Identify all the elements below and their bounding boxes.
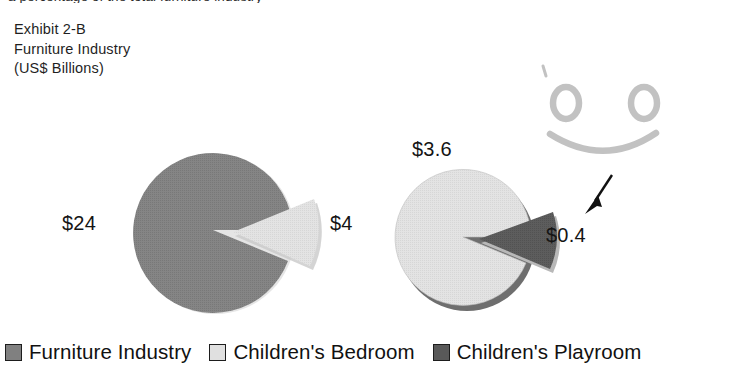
legend-item-furniture-industry: Furniture Industry: [5, 341, 191, 363]
legend-swatch-icon: [5, 344, 22, 361]
pie-charts-figure: [0, 0, 738, 371]
legend-item-childrens-playroom: Children's Playroom: [433, 341, 642, 363]
smiley-right-eye-icon: [631, 87, 657, 119]
legend-swatch-icon: [433, 344, 450, 361]
smiley-mouth-icon: [550, 133, 656, 151]
legend-swatch-icon: [209, 344, 226, 361]
legend-item-childrens-bedroom: Children's Bedroom: [209, 341, 414, 363]
legend-label: Furniture Industry: [29, 341, 191, 363]
pie-chart-right: [395, 169, 560, 311]
arrow-down-left-icon: [585, 175, 612, 214]
smiley-stray-mark-icon: [543, 66, 546, 76]
chart-legend: Furniture Industry Children's Bedroom Ch…: [5, 341, 659, 363]
legend-label: Children's Playroom: [457, 341, 642, 363]
arrow-head: [585, 195, 602, 214]
value-label-left-minor: $4: [330, 212, 353, 235]
legend-label: Children's Bedroom: [233, 341, 414, 363]
smiley-left-eye-icon: [553, 87, 579, 119]
smiley-face-icon: [543, 66, 657, 151]
value-label-right-major: $3.6: [412, 138, 452, 161]
value-label-left-major: $24: [62, 212, 96, 235]
pie-chart-left: [133, 153, 322, 314]
value-label-right-minor: $0.4: [546, 224, 586, 247]
